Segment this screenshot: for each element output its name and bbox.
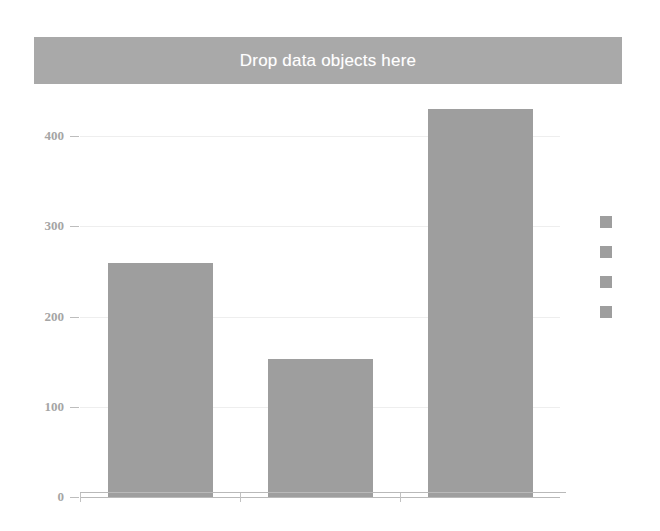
x-axis-tick — [80, 493, 81, 502]
legend-swatch-icon — [600, 276, 612, 288]
y-axis-tick-label: 400 — [0, 128, 64, 144]
y-axis-tick — [70, 407, 79, 408]
legend-swatch-icon — [600, 216, 612, 228]
y-axis-tick — [70, 497, 79, 498]
y-axis-tick — [70, 226, 79, 227]
gridline — [80, 497, 560, 498]
bar[interactable] — [428, 109, 533, 497]
x-axis-tick — [240, 493, 241, 502]
y-axis-tick-label: 0 — [0, 489, 64, 505]
bar[interactable] — [108, 263, 213, 497]
chart-drop-panel: Drop data objects here 0100200300400 — [0, 0, 660, 531]
y-axis-tick — [70, 317, 79, 318]
x-axis-line — [80, 492, 566, 493]
legend-swatch-icon — [600, 306, 612, 318]
legend-item[interactable] — [600, 216, 640, 246]
bar-chart[interactable]: 0100200300400 — [0, 95, 660, 531]
y-axis-tick-label: 200 — [0, 309, 64, 325]
x-axis-tick — [400, 493, 401, 502]
plot-area[interactable] — [80, 100, 560, 497]
drop-zone[interactable]: Drop data objects here — [34, 37, 622, 84]
drop-zone-label: Drop data objects here — [240, 51, 416, 71]
legend-swatch-icon — [600, 246, 612, 258]
y-axis-tick — [70, 136, 79, 137]
chart-legend[interactable] — [600, 216, 640, 336]
bar[interactable] — [268, 359, 373, 497]
y-axis-tick-label: 300 — [0, 218, 64, 234]
legend-item[interactable] — [600, 306, 640, 336]
y-axis-tick-label: 100 — [0, 399, 64, 415]
legend-item[interactable] — [600, 246, 640, 276]
legend-item[interactable] — [600, 276, 640, 306]
